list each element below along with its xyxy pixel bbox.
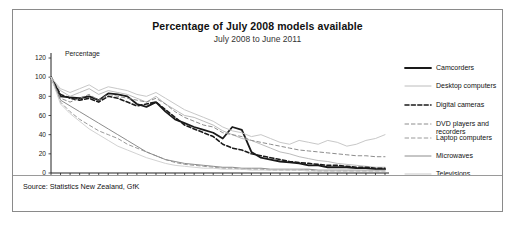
y-axis-tick-label: 80 [39,93,47,100]
legend-label[interactable]: Camcorders [436,64,475,71]
legend-label[interactable]: Desktop computers [436,82,497,90]
legend-label[interactable]: Digital cameras [436,101,485,109]
source-note: Source: Statistics New Zealand, GfK [23,182,139,191]
y-axis-tick-label: 20 [39,150,47,157]
chart-legend: CamcordersDesktop computersDigital camer… [405,64,502,175]
series-line [51,77,385,168]
y-axis-tick-label: 120 [35,54,46,61]
legend-label[interactable]: DVD players and [436,120,489,128]
footer-divider [13,175,502,176]
legend-label[interactable]: Laptop computers [436,134,493,142]
chart-frame: Percentage of July 2008 models available… [12,9,503,212]
y-axis-tick-label: 60 [39,112,47,119]
y-axis-tick-label: 40 [39,131,47,138]
legend-label[interactable]: Microwaves [436,152,473,159]
series-line [51,77,385,169]
chart-plot-area: 020406080100120JASONDJFMAMJJASONDJFMAMJJ… [13,10,502,175]
y-axis-tick-label: 100 [35,73,46,80]
